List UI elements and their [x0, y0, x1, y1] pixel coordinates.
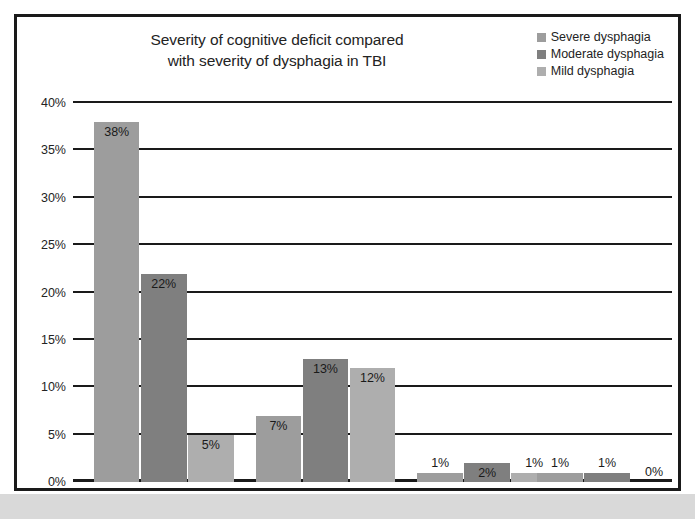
bar: 13%: [303, 359, 349, 482]
page-bleed-strip: [0, 494, 695, 519]
legend-swatch-icon: [537, 33, 546, 42]
plot-area: 0%5%10%15%20%25%30%35%40% 38%22%5%7%13%1…: [73, 103, 672, 482]
bar: 5%: [188, 435, 234, 482]
legend-item-label: Moderate dysphagia: [551, 46, 664, 62]
bar-value-label: 1%: [431, 456, 449, 470]
y-axis-tick-label: 35%: [41, 143, 66, 157]
bar: 7%: [256, 416, 302, 482]
bar-value-label: 1%: [525, 456, 543, 470]
legend-item: Mild dysphagia: [537, 63, 664, 79]
chart-title-line-1: Severity of cognitive deficit compared: [77, 29, 477, 50]
bar-value-label: 22%: [151, 277, 176, 291]
y-axis-tick-label: 10%: [41, 380, 66, 394]
plot-inner: 0%5%10%15%20%25%30%35%40% 38%22%5%7%13%1…: [73, 103, 672, 482]
bar-value-label: 13%: [313, 362, 338, 376]
bar: 1%: [417, 473, 463, 482]
legend-swatch-icon: [537, 50, 546, 59]
bar-value-label: 38%: [104, 125, 129, 139]
y-axis-tick-label: 25%: [41, 238, 66, 252]
legend-item-label: Mild dysphagia: [551, 63, 634, 79]
bar-value-label: 12%: [360, 371, 385, 385]
y-axis-tick-label: 5%: [48, 428, 66, 442]
legend-item-label: Severe dysphagia: [551, 29, 651, 45]
bar: 22%: [141, 274, 187, 482]
legend-item: Severe dysphagia: [537, 29, 664, 45]
y-axis-tick-label: 30%: [41, 191, 66, 205]
y-axis-tick-label: 15%: [41, 333, 66, 347]
legend-swatch-icon: [537, 67, 546, 76]
y-axis-tick-label: 20%: [41, 286, 66, 300]
bar: 12%: [350, 368, 396, 482]
legend-item: Moderate dysphagia: [537, 46, 664, 62]
bar: 2%: [464, 463, 510, 482]
chart-title-line-2: with severity of dysphagia in TBI: [77, 50, 477, 71]
bar-value-label: 1%: [598, 456, 616, 470]
bar-value-label: 2%: [478, 466, 496, 480]
chart-legend: Severe dysphagiaModerate dysphagiaMild d…: [537, 29, 664, 79]
bar: 38%: [94, 122, 140, 482]
chart-figure: Severity of cognitive deficit compared w…: [14, 14, 681, 491]
bar-value-label: 1%: [551, 456, 569, 470]
bar-value-label: 5%: [202, 438, 220, 452]
bar-value-label: 0%: [645, 465, 663, 479]
bars-layer: 38%22%5%7%13%12%1%2%1%1%1%0%: [73, 103, 672, 482]
y-axis-tick-label: 40%: [41, 96, 66, 110]
bar: 1%: [584, 473, 630, 482]
chart-title: Severity of cognitive deficit compared w…: [77, 29, 477, 71]
bar: 1%: [537, 473, 583, 482]
y-axis-tick-label: 0%: [48, 475, 66, 489]
bar-value-label: 7%: [269, 419, 287, 433]
